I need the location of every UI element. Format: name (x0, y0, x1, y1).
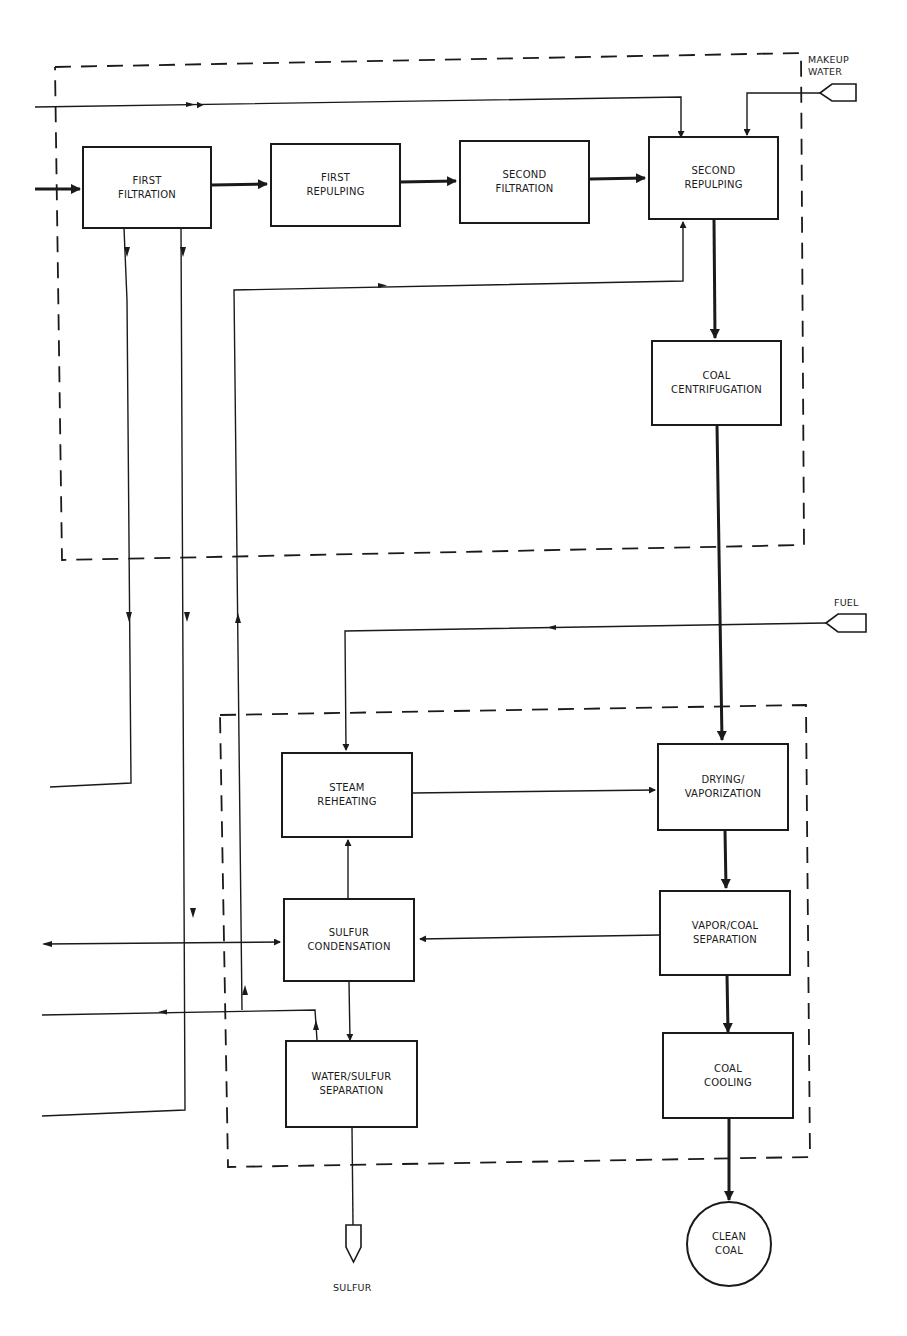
clean-coal-terminal: CLEAN COAL (686, 1201, 772, 1287)
box-vapor-coal-separation: VAPOR/COAL SEPARATION (659, 890, 791, 976)
box-first-filtration: FIRST FILTRATION (82, 146, 212, 229)
box-vapor-coal-separation-label: VAPOR/COAL SEPARATION (692, 919, 758, 947)
box-coal-centrifugation: COAL CENTRIFUGATION (651, 340, 782, 426)
box-coal-cooling-label: COAL COOLING (704, 1062, 752, 1090)
box-water-sulfur-separation-label: WATER/SULFUR SEPARATION (312, 1070, 392, 1098)
section-boundary-top (55, 53, 804, 560)
box-coal-centrifugation-label: COAL CENTRIFUGATION (671, 369, 762, 397)
box-second-repulping-label: SECOND REPULPING (684, 164, 742, 192)
box-first-filtration-label: FIRST FILTRATION (118, 174, 176, 202)
box-coal-cooling: COAL COOLING (662, 1032, 794, 1119)
box-water-sulfur-separation: WATER/SULFUR SEPARATION (285, 1040, 418, 1128)
sulfur-terminal (346, 1225, 361, 1262)
box-first-repulping: FIRST REPULPING (270, 143, 401, 227)
makeup-water-label: MAKEUP WATER (808, 54, 849, 78)
process-flow-diagram: FIRST FILTRATION FIRST REPULPING SECOND … (0, 0, 907, 1336)
box-steam-reheating-label: STEAM REHEATING (317, 781, 376, 809)
box-steam-reheating: STEAM REHEATING (281, 752, 413, 838)
box-second-filtration-label: SECOND FILTRATION (495, 168, 553, 196)
sulfur-label: SULFUR (333, 1282, 372, 1294)
box-second-filtration: SECOND FILTRATION (459, 140, 590, 224)
fuel-terminal (826, 614, 866, 632)
box-second-repulping: SECOND REPULPING (648, 136, 779, 220)
fuel-label: FUEL (834, 597, 859, 609)
box-drying-vaporization: DRYING/ VAPORIZATION (657, 743, 789, 831)
clean-coal-label: CLEAN COAL (712, 1230, 746, 1258)
box-sulfur-condensation-label: SULFUR CONDENSATION (307, 926, 390, 954)
box-drying-vaporization-label: DRYING/ VAPORIZATION (685, 773, 762, 801)
box-sulfur-condensation: SULFUR CONDENSATION (283, 898, 415, 982)
makeup-water-terminal (820, 84, 856, 101)
box-first-repulping-label: FIRST REPULPING (306, 171, 364, 199)
